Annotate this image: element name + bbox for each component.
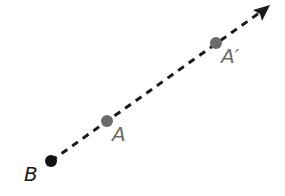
arrowhead-icon [253,5,270,21]
label-b: B [24,164,38,184]
ray-diagram [0,0,285,196]
point-b [45,155,57,167]
dashed-ray [51,11,262,161]
label-a-prime: A′ [221,46,239,66]
diagram-canvas: B A A′ [0,0,285,196]
label-a: A [112,124,126,144]
